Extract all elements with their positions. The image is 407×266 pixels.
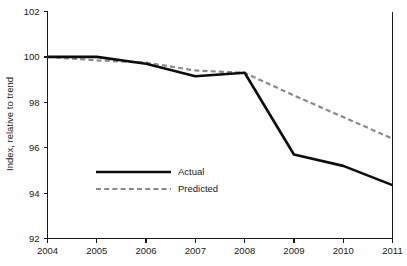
line-chart: 92949698100102 2004200520062007200820092… [0,0,407,266]
x-tick-label: 2005 [86,245,107,256]
chart-legend: Actual Predicted [96,166,218,194]
y-tick-label: 96 [29,142,40,153]
series-line-predicted [48,57,393,139]
y-tick-label: 92 [29,233,40,244]
legend-label-predicted: Predicted [178,183,218,194]
x-tick-label: 2011 [382,245,402,256]
y-tick-label: 98 [29,97,40,108]
x-tick-label: 2008 [234,245,255,256]
series-line-actual [48,57,393,185]
x-tick-label: 2010 [333,245,354,256]
y-axis-title: Index, relative to trend [4,77,15,171]
x-tick-label: 2006 [136,245,157,256]
x-tick-label: 2004 [37,245,58,256]
y-tick-label: 102 [24,6,40,17]
chart-container: 92949698100102 2004200520062007200820092… [0,0,407,266]
x-tick-label: 2007 [185,245,206,256]
x-tick-label: 2009 [283,245,304,256]
x-axis-tick-labels: 20042005200620072008200920102011 [37,245,403,256]
legend-label-actual: Actual [178,166,204,177]
y-tick-label: 100 [24,51,40,62]
y-tick-label: 94 [29,188,40,199]
y-axis-tick-labels: 92949698100102 [24,6,40,244]
